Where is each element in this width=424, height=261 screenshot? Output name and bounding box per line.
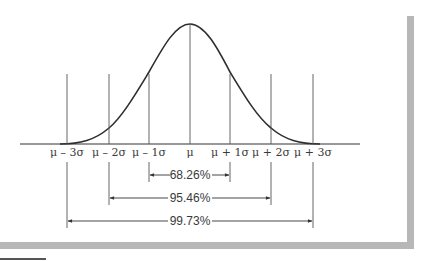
normal-distribution-diagram: μ – 3σ μ – 2σ μ – 1σ μ μ + 1σ μ + 2σ μ +… — [0, 0, 424, 261]
tick-label-mu-minus-1sigma: μ – 1σ — [132, 146, 167, 159]
interval-68-percent: 68.26% — [150, 168, 229, 182]
interval-label-99: 99.73% — [170, 214, 211, 228]
tick-label-mu-minus-3sigma: μ – 3σ — [50, 146, 85, 159]
tick-label-mu-minus-2sigma: μ – 2σ — [92, 146, 127, 159]
tick-label-mu-plus-3sigma: μ + 3σ — [294, 146, 332, 159]
interval-95-percent: 95.46% — [110, 191, 270, 205]
interval-99-percent: 99.73% — [68, 214, 312, 228]
interval-label-95: 95.46% — [170, 191, 211, 205]
tick-label-mu: μ — [186, 146, 193, 159]
interval-label-68: 68.26% — [170, 168, 211, 182]
tick-label-mu-plus-1sigma: μ + 1σ — [211, 146, 249, 159]
tick-label-mu-plus-2sigma: μ + 2σ — [252, 146, 290, 159]
